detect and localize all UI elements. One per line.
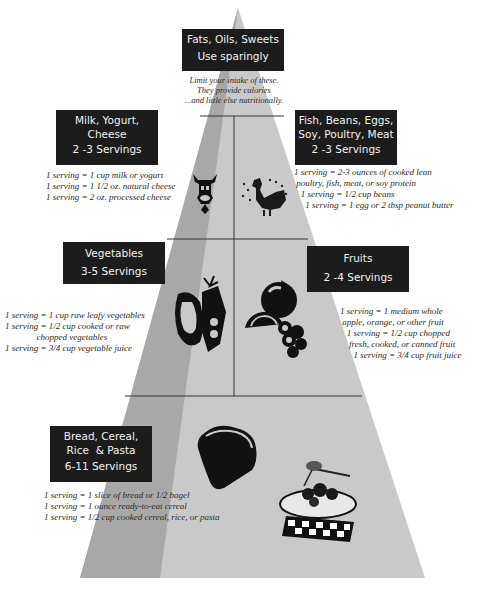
- fruits-servings: 2 -4 Servings: [309, 270, 407, 285]
- meat-title: Fish, Beans, Eggs, Soy, Poultry, Meat: [297, 113, 395, 141]
- milk-note: 1 serving = 1 cup milk or yogurt 1 servi…: [46, 170, 176, 203]
- fruits-label-box: Fruits 2 -4 Servings: [307, 246, 409, 292]
- meat-servings: 2 -3 Servings: [297, 142, 395, 156]
- grains-label-box: Bread, Cereal, Rice & Pasta 6-11 Serving…: [50, 426, 152, 482]
- spaghetti-icon: [278, 450, 364, 542]
- rooster-icon: [240, 176, 290, 218]
- vegetables-label-box: Vegetables 3-5 Servings: [63, 242, 165, 284]
- grains-note: 1 serving = 1 slice of bread or 1/2 bage…: [44, 490, 219, 523]
- milk-label-box: Milk, Yogurt, Cheese 2 -3 Servings: [56, 110, 158, 165]
- vegetables-note: 1 serving = 1 cup raw leafy vegetables 1…: [5, 310, 145, 354]
- vegetables-icon: [168, 272, 230, 360]
- meat-note: 1 serving = 2-3 ounces of cooked lean po…: [294, 167, 454, 211]
- cow-icon: [191, 172, 219, 214]
- grains-title: Bread, Cereal, Rice & Pasta: [52, 429, 150, 457]
- meat-label-box: Fish, Beans, Eggs, Soy, Poultry, Meat 2 …: [295, 110, 397, 165]
- milk-title: Milk, Yogurt, Cheese: [58, 113, 156, 141]
- fruits-title: Fruits: [309, 251, 407, 266]
- fruits-icon: [243, 278, 315, 358]
- fats-label-box: Fats, Oils, Sweets Use sparingly: [182, 29, 284, 71]
- vegetables-title: Vegetables: [65, 246, 163, 261]
- fruits-note: 1 serving = 1 medium whole apple, orange…: [340, 306, 462, 361]
- fats-title: Fats, Oils, Sweets: [184, 32, 282, 47]
- fats-servings: Use sparingly: [184, 49, 282, 64]
- grains-servings: 6-11 Servings: [52, 459, 150, 473]
- bread-icon: [194, 422, 260, 490]
- fats-note: Limit your intake of these. They provide…: [172, 75, 296, 105]
- vegetables-servings: 3-5 Servings: [65, 264, 163, 279]
- milk-servings: 2 -3 Servings: [58, 142, 156, 156]
